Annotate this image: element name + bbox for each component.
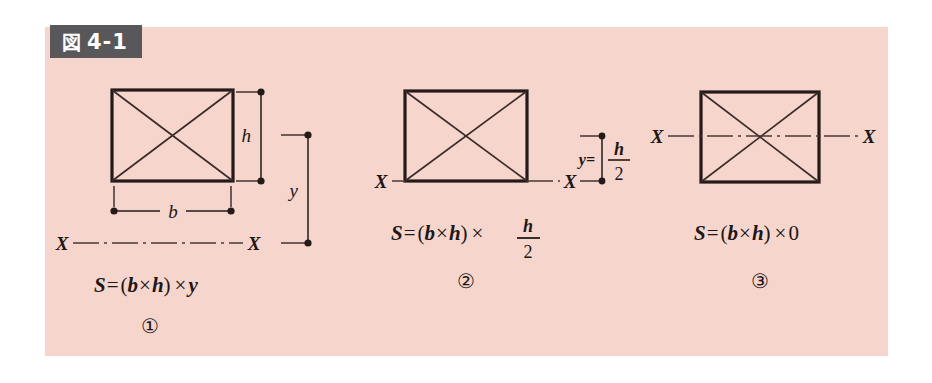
centroid-dimension-dot-top (304, 131, 311, 138)
formula-3-times1: × (739, 221, 751, 245)
formula-2-fraction-denominator: 2 (524, 242, 533, 262)
annotation-fraction-denominator: 2 (615, 164, 624, 184)
diagram-panel-3: X X S=(b×h)×0 ③ (650, 92, 877, 292)
formula-2-close-paren: ) (461, 221, 468, 245)
figure-root: 図 4-1 h b (0, 0, 932, 383)
formula-3-equals: = (707, 221, 719, 245)
formula-1-times2: × (175, 273, 187, 297)
formula-1-rhs: y (185, 273, 198, 297)
width-dimension-dot-left (110, 207, 117, 214)
diagram-panel-1: h b y X X S=(b×h)×y ① (55, 88, 312, 337)
formula-1-open-paren: ( (121, 273, 128, 297)
axis-label-left-1: X (55, 233, 70, 254)
width-dimension-dot-right (227, 207, 234, 214)
axis-label-left-2: X (374, 171, 389, 192)
formula-2-b: b (425, 221, 436, 245)
formula-3-lhs: S (694, 221, 706, 245)
formula-2-times2: × (472, 221, 484, 245)
annotation-dot-bottom (599, 178, 606, 185)
width-dimension-label: b (168, 201, 178, 222)
formula-3-b: b (728, 221, 739, 245)
caption-number-1: ① (141, 315, 159, 337)
figure-number-badge: 図 4-1 (50, 25, 142, 58)
axis-label-right-3: X (862, 126, 877, 147)
annotation-label-y: y= (577, 151, 595, 169)
formula-2-fraction-numerator: h (523, 216, 533, 236)
caption-number-3: ③ (751, 270, 769, 292)
formula-2-lhs: S (391, 221, 403, 245)
formula-1-b: b (128, 273, 139, 297)
formula-3-rhs: 0 (788, 221, 799, 245)
height-dimension-dot-bottom (257, 177, 264, 184)
annotation-dot-top (599, 133, 606, 140)
centroid-dimension-label: y (288, 180, 299, 201)
figure-badge-number: 4-1 (87, 30, 128, 54)
formula-3: S=(b×h)×0 (694, 221, 799, 245)
formula-3-times2: × (775, 221, 787, 245)
axis-label-right-2: X (563, 171, 578, 192)
formula-1-equals: = (107, 273, 119, 297)
figure-badge-kanji: 図 (62, 28, 82, 55)
height-dimension-dot-top (257, 88, 264, 95)
formula-2: S=(b×h)× (391, 221, 483, 245)
formula-1-lhs: S (94, 273, 106, 297)
formula-1: S=(b×h)×y (94, 273, 198, 297)
axis-label-left-3: X (650, 126, 665, 147)
formula-2-equals: = (404, 221, 416, 245)
diagram-panel-2: X X y= h 2 S=(b×h)× h 2 ② (374, 91, 630, 292)
caption-number-2: ② (457, 270, 475, 292)
formula-1-close-paren: ) (164, 273, 171, 297)
formula-2-times1: × (436, 221, 448, 245)
formula-1-h: h (152, 273, 164, 297)
formula-3-close-paren: ) (764, 221, 771, 245)
height-dimension-label: h (242, 125, 252, 146)
formula-2-h: h (449, 221, 461, 245)
formula-3-h: h (752, 221, 764, 245)
formula-1-times1: × (139, 273, 151, 297)
formula-3-open-paren: ( (721, 221, 728, 245)
formula-2-open-paren: ( (418, 221, 425, 245)
annotation-fraction-numerator: h (614, 139, 624, 159)
axis-label-right-1: X (247, 233, 262, 254)
centroid-dimension-dot-bottom (304, 239, 311, 246)
